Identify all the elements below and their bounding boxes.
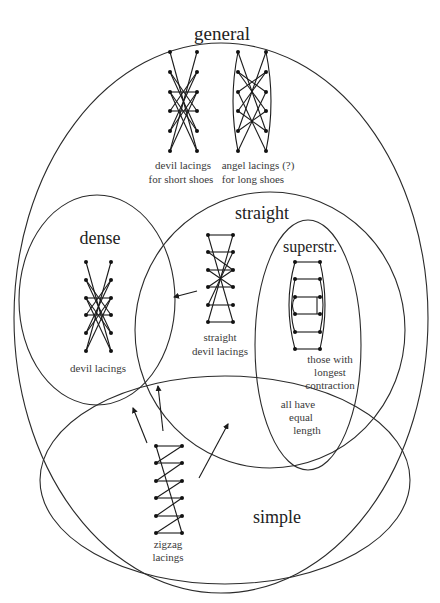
set-title-superstraight: superstr.: [283, 238, 337, 256]
zigzag-lacing-figure: [154, 444, 184, 535]
caption-devil-short-line2: for short shoes: [149, 173, 214, 185]
arrow-zigzag-to-dense: [133, 408, 147, 443]
superstraight-lacing-figure: [289, 260, 325, 351]
caption-longest-contraction-line1: those with: [307, 353, 353, 365]
set-title-general: general: [194, 23, 250, 44]
caption-straight-devil-line1: straight: [204, 331, 237, 343]
lacing-classification-diagram: general dense straight superstr. simple: [0, 0, 440, 603]
caption-longest-contraction-line3: contraction: [305, 379, 355, 391]
caption-equal-length-line1: all have: [281, 398, 316, 410]
set-title-dense: dense: [80, 228, 121, 248]
set-general-ellipse: [14, 43, 428, 593]
caption-devil: devil lacings: [70, 362, 126, 374]
caption-angel-long-line1: angel lacings (?): [222, 159, 295, 172]
caption-zigzag-line1: zigzag: [154, 538, 183, 550]
arrow-zigzag-to-straight-simple: [199, 424, 228, 478]
caption-zigzag-line2: lacings: [152, 551, 183, 563]
straight-devil-lacing-figure: [206, 233, 235, 324]
caption-devil-short-line1: devil lacings: [155, 159, 211, 171]
caption-straight-devil-line2: devil lacings: [192, 345, 248, 357]
caption-longest-contraction-line2: longest: [314, 366, 346, 378]
devil-lacing-short-shoes-figure: [168, 50, 199, 153]
set-title-straight: straight: [235, 203, 289, 223]
caption-equal-length-line3: length: [293, 424, 321, 436]
set-title-simple: simple: [253, 507, 301, 527]
set-straight-ellipse: [135, 192, 405, 468]
arrow-straight-devil-to-dense: [174, 291, 197, 297]
caption-equal-length-line2: equal: [289, 411, 313, 423]
devil-lacing-figure: [84, 260, 113, 353]
caption-angel-long-line2: for long shoes: [222, 173, 284, 185]
angel-lacing-long-shoes-figure: [233, 50, 271, 153]
